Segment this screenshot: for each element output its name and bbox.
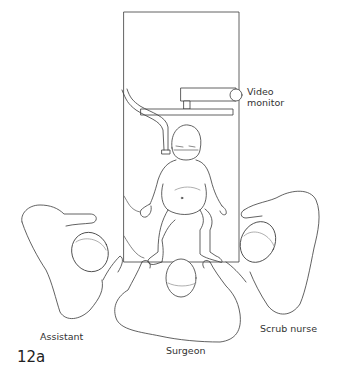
video-monitor-label-line1: Video bbox=[247, 86, 274, 97]
operating-table bbox=[124, 12, 239, 262]
scrub-nurse-label: Scrub nurse bbox=[260, 323, 317, 334]
or-setup-illustration bbox=[0, 0, 338, 375]
assistant-figure bbox=[22, 205, 123, 319]
figure-label: 12a bbox=[17, 348, 45, 366]
surgeon-label: Surgeon bbox=[166, 345, 206, 356]
surgeon-figure bbox=[115, 259, 241, 342]
scrub-nurse-figure bbox=[226, 191, 319, 314]
assistant-label: Assistant bbox=[40, 331, 83, 342]
video-monitor-label-line2: monitor bbox=[247, 97, 284, 108]
